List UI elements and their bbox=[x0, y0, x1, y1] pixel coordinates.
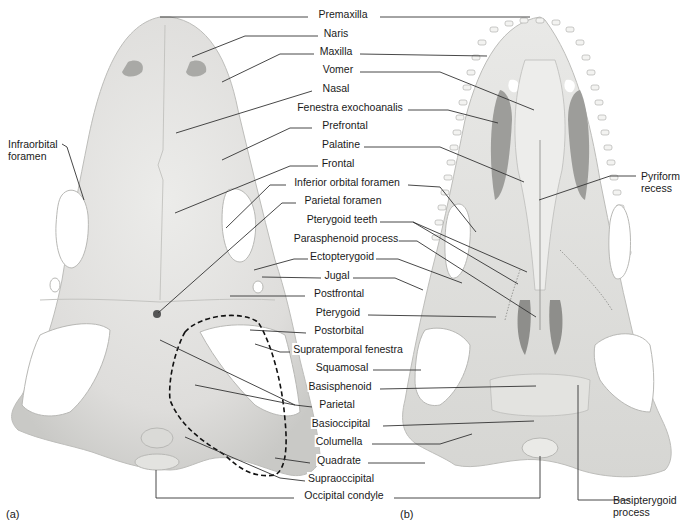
label-supratemporal-fenestra: Supratemporal fenestra bbox=[292, 343, 404, 355]
label-ectopterygoid: Ectopterygoid bbox=[309, 250, 375, 262]
label-columella: Columella bbox=[315, 435, 364, 447]
label-pterygoid: Pterygoid bbox=[315, 306, 361, 318]
label-infraorbital-foramen: Infraorbital foramen bbox=[7, 138, 59, 162]
label-parietal-foramen: Parietal foramen bbox=[303, 194, 382, 206]
label-premaxilla: Premaxilla bbox=[317, 8, 368, 20]
label-parietal: Parietal bbox=[318, 398, 356, 410]
label-palatine: Palatine bbox=[321, 138, 361, 150]
label-basipterygoid-process: Basipterygoid process bbox=[612, 494, 678, 518]
label-frontal: Frontal bbox=[321, 157, 356, 169]
label-jugal: Jugal bbox=[323, 269, 350, 281]
label-occipital-condyle: Occipital condyle bbox=[303, 489, 384, 501]
label-squamosal: Squamosal bbox=[315, 361, 370, 373]
skull-dorsal-view bbox=[12, 17, 320, 476]
label-postorbital: Postorbital bbox=[313, 324, 365, 336]
label-nasal: Nasal bbox=[322, 82, 351, 94]
label-inferior-orbital-foramen: Inferior orbital foramen bbox=[293, 176, 401, 188]
label-supraoccipital: Supraoccipital bbox=[307, 472, 375, 484]
label-naris: Naris bbox=[323, 27, 350, 39]
label-postfrontal: Postfrontal bbox=[313, 287, 365, 299]
label-prefrontal: Prefrontal bbox=[321, 119, 369, 131]
anatomy-figure: Premaxilla Naris Maxilla Vomer Nasal Fen… bbox=[0, 0, 687, 526]
skull-illustrations bbox=[0, 0, 687, 526]
label-vomer: Vomer bbox=[322, 63, 354, 75]
label-quadrate: Quadrate bbox=[316, 454, 362, 466]
label-maxilla: Maxilla bbox=[319, 45, 354, 57]
skull-ventral-view bbox=[403, 17, 672, 477]
label-parasphenoid-process: Parasphenoid process bbox=[293, 232, 399, 244]
label-pyriform-recess: Pyriform recess bbox=[640, 170, 681, 194]
label-basioccipital: Basioccipital bbox=[311, 417, 371, 429]
panel-label-a: (a) bbox=[6, 508, 19, 520]
panel-label-b: (b) bbox=[400, 508, 413, 520]
label-fenestra-exochoanalis: Fenestra exochoanalis bbox=[296, 101, 404, 113]
label-pterygoid-teeth: Pterygoid teeth bbox=[306, 213, 379, 225]
label-basisphenoid: Basisphenoid bbox=[307, 380, 372, 392]
